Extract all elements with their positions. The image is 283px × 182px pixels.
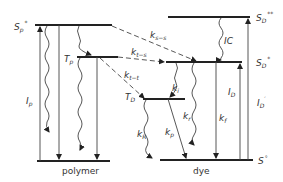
sp-to-tp-isc-wavy-arrow — [78, 26, 92, 55]
s0-label: S° — [258, 154, 268, 166]
ks-s-label: ks−s — [150, 30, 167, 41]
tp-label: Tp — [64, 54, 74, 66]
kp-label: kp — [165, 127, 174, 139]
kt-t-label: kt−t — [124, 70, 140, 81]
polymer-group: Sp* Tp Ip polymer — [14, 19, 118, 176]
sd-star-label: SD* — [256, 55, 270, 69]
dye-group: SD** SD* TD S° IC ki kr kf kR kp ID — [125, 10, 273, 176]
kf-label: kf — [219, 113, 227, 124]
dye-caption: dye — [193, 166, 210, 176]
tp-nonradiative-decay-wavy-arrow — [78, 58, 82, 150]
energy-level-diagram: Sp* Tp Ip polymer ks−s kt−s kt−t — [0, 0, 283, 182]
ic-label: IC — [224, 36, 234, 46]
ki-label: ki — [172, 83, 179, 94]
kr-nonradiative-wavy-arrow — [192, 63, 196, 145]
kr-label: kr — [183, 111, 191, 122]
ip-label: Ip — [26, 96, 33, 108]
ic-wavy-arrow — [219, 18, 223, 60]
td-label: TD — [125, 92, 136, 103]
sp-nonradiative-decay-wavy-arrow — [45, 26, 49, 132]
id-prime-label: ID′ — [257, 95, 266, 109]
sd-star2-label: SD** — [256, 10, 273, 24]
kR-nonradiative-wavy-arrow — [144, 100, 152, 158]
id-label: ID — [228, 87, 236, 98]
kt-s-label: kt−s — [131, 47, 147, 58]
kp-phosphorescence-arrow — [168, 99, 186, 158]
sp-star-label: Sp* — [14, 19, 28, 34]
polymer-caption: polymer — [62, 166, 99, 176]
kR-label: kR — [137, 129, 146, 140]
